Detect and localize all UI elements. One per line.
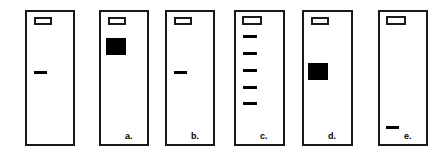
dna-band: [34, 71, 47, 74]
lane-label: b.: [191, 132, 199, 141]
gel-lane: c.: [234, 10, 285, 146]
lane-label: d.: [328, 132, 336, 141]
lane-label: e.: [404, 132, 412, 141]
gel-lane: [25, 10, 75, 146]
dna-band: [243, 52, 257, 55]
gel-electrophoresis-figure: a.b.c.d.e.: [0, 0, 448, 156]
dna-band: [243, 102, 257, 105]
dna-band: [174, 71, 187, 74]
gel-lane: e.: [378, 10, 428, 146]
gel-lane: d.: [302, 10, 353, 146]
dna-band: [243, 86, 257, 89]
dna-band: [243, 35, 257, 38]
lane-label: a.: [125, 132, 133, 141]
loading-well: [242, 16, 262, 25]
loading-well: [386, 16, 406, 25]
dna-band: [386, 126, 399, 129]
dna-band: [106, 38, 126, 55]
loading-well: [174, 17, 192, 25]
dna-band: [243, 69, 257, 72]
gel-lane: a.: [99, 10, 149, 146]
dna-band: [308, 63, 328, 80]
loading-well: [34, 17, 52, 25]
loading-well: [108, 17, 126, 25]
gel-lane: b.: [165, 10, 215, 146]
lane-label: c.: [260, 132, 268, 141]
loading-well: [311, 17, 329, 25]
